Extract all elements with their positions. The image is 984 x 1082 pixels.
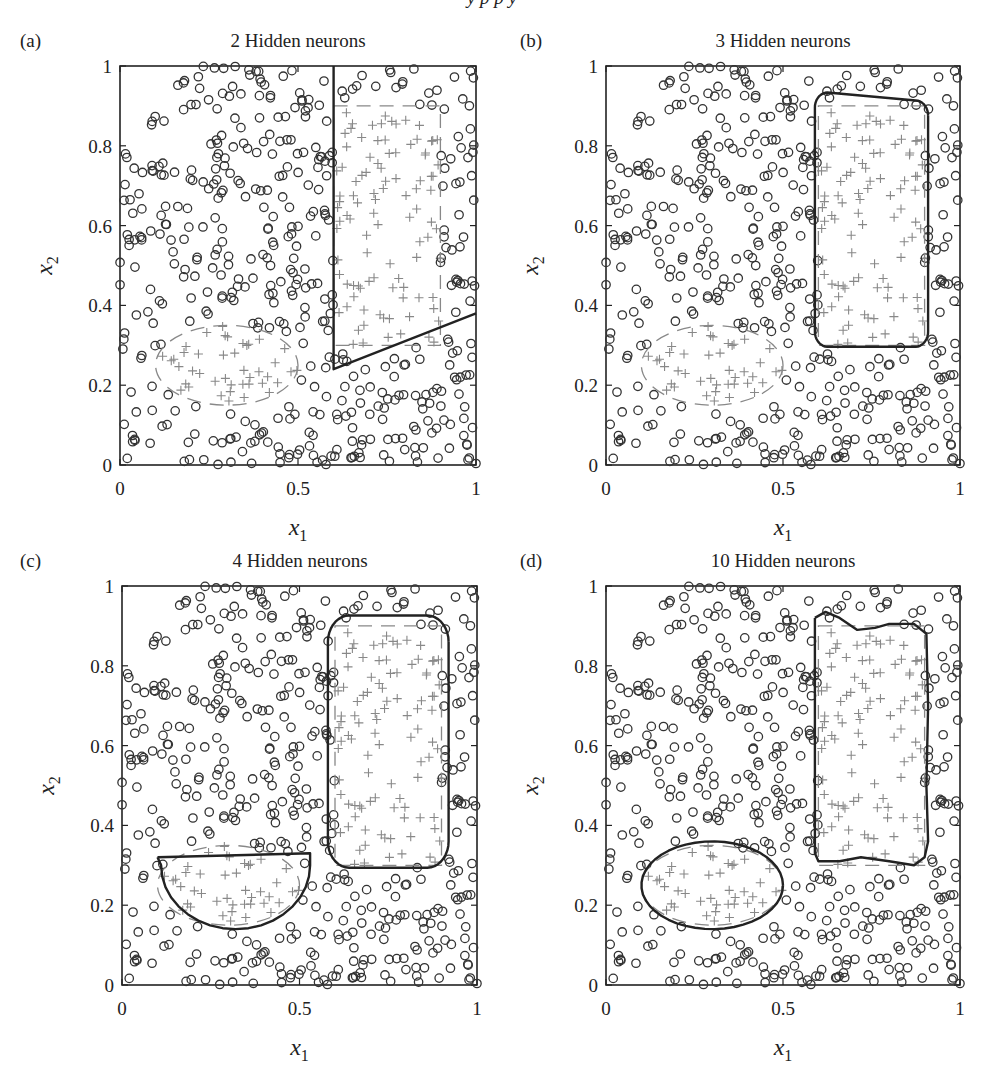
class0-point: [201, 698, 209, 706]
x-axis-label: x1: [773, 1034, 793, 1064]
class0-point: [646, 637, 654, 645]
class0-point: [931, 155, 939, 163]
class0-point: [791, 362, 799, 370]
class0-point: [618, 408, 626, 416]
class0-point: [938, 652, 946, 660]
class0-point: [607, 700, 615, 708]
class1-point: [913, 824, 922, 833]
class0-point: [373, 602, 381, 610]
class0-point: [192, 792, 200, 800]
class0-point: [740, 611, 748, 619]
class0-point: [698, 765, 706, 773]
class0-point: [330, 776, 338, 784]
class0-point: [460, 403, 468, 411]
class0-point: [278, 193, 286, 201]
class0-point: [755, 299, 763, 307]
class0-point: [180, 235, 188, 243]
class0-point: [226, 781, 234, 789]
class1-point: [711, 387, 720, 396]
class0-point: [251, 421, 259, 429]
class0-point: [673, 166, 681, 174]
class0-point: [856, 82, 864, 90]
class1-point: [415, 293, 424, 302]
class1-point: [361, 841, 370, 850]
class1-point: [429, 656, 438, 665]
y-tick-label: 0.2: [90, 895, 114, 916]
class0-point: [948, 153, 956, 161]
class1-point: [865, 112, 874, 121]
class0-point: [909, 609, 917, 617]
panel-letter: (a): [20, 30, 41, 52]
class0-point: [724, 967, 732, 975]
class1-point: [897, 655, 906, 664]
class0-point: [138, 168, 146, 176]
class0-point: [358, 71, 366, 79]
class1-point: [834, 812, 843, 821]
class0-point: [695, 437, 703, 445]
class0-point: [267, 650, 275, 658]
class1-point: [359, 305, 368, 314]
class0-point: [952, 353, 960, 361]
class1-point: [371, 729, 380, 738]
class0-point: [822, 916, 830, 924]
class0-point: [466, 297, 474, 305]
class1-point: [416, 813, 425, 822]
class1-point: [223, 332, 232, 341]
class0-point: [283, 163, 291, 171]
class1-point: [197, 889, 206, 898]
class0-point: [786, 313, 794, 321]
class0-point: [307, 362, 315, 370]
y-tick-label: 0.4: [88, 295, 112, 316]
class0-point: [243, 937, 251, 945]
class1-point: [241, 913, 250, 922]
class0-point: [943, 753, 951, 761]
class0-point: [237, 123, 245, 131]
class1-point: [704, 871, 713, 880]
class0-point: [716, 114, 724, 122]
class0-point: [386, 977, 394, 985]
class0-point: [292, 242, 300, 250]
y-tick-label: 0.6: [574, 216, 598, 237]
class0-point: [939, 390, 947, 398]
class0-point: [186, 175, 194, 183]
class0-point: [789, 181, 797, 189]
class0-point: [696, 734, 704, 742]
class0-point: [694, 264, 702, 272]
class0-point: [851, 383, 859, 391]
class1-point: [839, 326, 848, 335]
class1-point: [220, 842, 229, 851]
class0-point: [929, 964, 937, 972]
class1-point: [405, 312, 414, 321]
class1-point: [430, 692, 439, 701]
class0-point: [606, 196, 614, 204]
class1-point: [891, 140, 900, 149]
class1-point: [265, 892, 274, 901]
class0-point: [240, 967, 248, 975]
class0-point: [218, 439, 226, 447]
class1-point: [226, 387, 235, 396]
class0-point: [232, 634, 240, 642]
class1-point: [729, 340, 738, 349]
class1-point: [716, 349, 725, 358]
class0-point: [870, 457, 878, 465]
class1-point: [381, 177, 390, 186]
class0-point: [185, 724, 193, 732]
class1-point: [853, 121, 862, 130]
class1-point: [865, 656, 874, 665]
class1-point: [429, 304, 438, 313]
class1-point: [712, 380, 721, 389]
class0-point: [944, 414, 952, 422]
class0-point: [261, 723, 269, 731]
class0-point: [634, 382, 642, 390]
class0-point: [286, 415, 294, 423]
class0-point: [157, 340, 165, 348]
class0-point: [151, 839, 159, 847]
class1-point: [238, 339, 247, 348]
class1-point: [883, 813, 892, 822]
class1-point: [900, 757, 909, 766]
class0-point: [166, 911, 174, 919]
class1-point: [359, 321, 368, 330]
class0-point: [666, 235, 674, 243]
class1-point: [369, 209, 378, 218]
class1-point: [354, 718, 363, 727]
